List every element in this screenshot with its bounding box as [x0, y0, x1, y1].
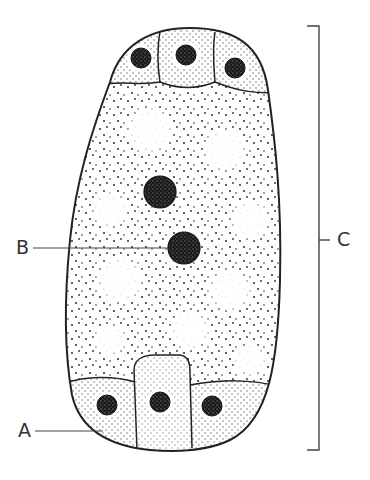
- label-a: A: [18, 421, 31, 440]
- antipodal-nucleus-2: [176, 45, 196, 65]
- egg-nucleus: [150, 392, 170, 412]
- embryo-sac-diagram: B A C: [0, 0, 370, 480]
- polar-nucleus-lower: [168, 232, 200, 264]
- label-c: C: [337, 230, 350, 249]
- diagram-canvas: [0, 0, 370, 480]
- antipodal-nucleus-3: [225, 58, 245, 78]
- synergid-nucleus-right: [202, 396, 222, 416]
- label-b: B: [16, 238, 29, 257]
- antipodal-nucleus-1: [131, 48, 151, 68]
- polar-nucleus-upper: [144, 176, 176, 208]
- synergid-nucleus-left: [97, 395, 117, 415]
- bracket-c: [307, 26, 319, 450]
